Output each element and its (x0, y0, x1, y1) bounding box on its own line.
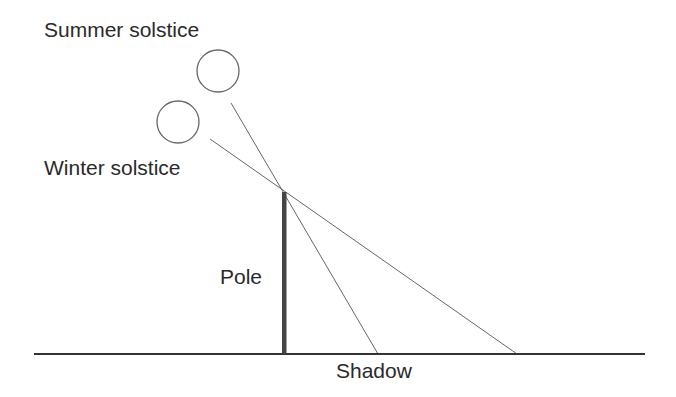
summer-solstice-label: Summer solstice (44, 18, 199, 41)
pole-label: Pole (220, 265, 262, 288)
summer-sun-icon (197, 50, 239, 92)
solstice-shadow-diagram: Summer solstice Winter solstice Pole Sha… (0, 0, 676, 397)
pole (282, 192, 287, 354)
winter-sun-icon (157, 101, 199, 143)
winter-solstice-label: Winter solstice (44, 156, 181, 179)
shadow-label: Shadow (336, 359, 413, 382)
winter-sun-ray (210, 139, 517, 354)
summer-sun-ray (231, 103, 378, 354)
